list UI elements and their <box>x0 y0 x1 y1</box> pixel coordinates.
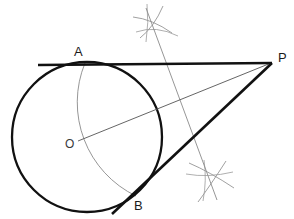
label-point-a: A <box>74 44 83 59</box>
label-point-o: O <box>65 137 74 151</box>
geometry-figure: A B O P <box>0 0 294 219</box>
geometry-canvas: A B O P <box>0 0 294 219</box>
label-point-b: B <box>134 198 143 213</box>
label-point-p: P <box>278 50 287 65</box>
